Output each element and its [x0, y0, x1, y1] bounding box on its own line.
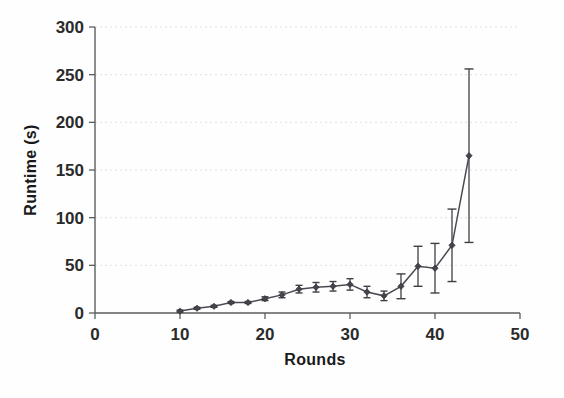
data-line-group	[180, 156, 469, 311]
x-tick-labels: 01020304050	[90, 325, 529, 344]
data-point-marker	[347, 281, 353, 287]
data-markers-group	[177, 153, 472, 315]
chart-figure: 050100150200250300 01020304050 Rounds Ru…	[0, 0, 564, 398]
y-tick-label: 250	[56, 66, 84, 85]
y-tick-label: 150	[56, 161, 84, 180]
y-tick-label: 300	[56, 18, 84, 37]
y-tick-label: 200	[56, 113, 84, 132]
x-axis-title: Rounds	[284, 351, 345, 368]
y-tick-label: 100	[56, 209, 84, 228]
y-tick-group	[89, 27, 95, 313]
y-axis-title: Runtime (s)	[22, 124, 39, 215]
data-point-marker	[466, 153, 472, 159]
error-bars-group	[177, 69, 474, 312]
chart-canvas: 050100150200250300 01020304050 Rounds Ru…	[0, 0, 564, 398]
data-point-marker	[228, 299, 234, 305]
x-tick-label: 0	[90, 325, 99, 344]
y-tick-label: 50	[65, 256, 84, 275]
x-tick-group	[95, 313, 520, 319]
data-point-marker	[296, 286, 302, 292]
data-point-marker	[211, 303, 217, 309]
x-tick-label: 30	[341, 325, 360, 344]
data-point-marker	[364, 289, 370, 295]
y-tick-labels: 050100150200250300	[56, 18, 84, 323]
series-line	[180, 156, 469, 311]
gridlines-group	[95, 27, 520, 265]
data-point-marker	[245, 299, 251, 305]
data-point-marker	[313, 284, 319, 290]
data-point-marker	[381, 293, 387, 299]
x-tick-label: 40	[426, 325, 445, 344]
x-tick-label: 20	[256, 325, 275, 344]
x-tick-label: 10	[171, 325, 190, 344]
data-point-marker	[330, 283, 336, 289]
x-tick-label: 50	[511, 325, 530, 344]
y-tick-label: 0	[75, 304, 84, 323]
data-point-marker	[194, 305, 200, 311]
